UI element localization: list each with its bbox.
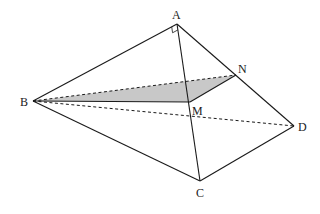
vertex-label-b: B [20,95,28,109]
vertex-label-a: A [172,8,181,22]
edge-cd [200,126,294,181]
edge-bc [33,101,200,181]
tetrahedron-figure: ABCDMN [0,0,320,214]
vertex-label-m: M [192,104,203,118]
right-angle-marker-icon [172,27,178,33]
vertex-label-c: C [196,186,204,200]
section-triangle-bnm [33,75,236,102]
vertex-label-d: D [298,120,307,134]
vertex-label-n: N [238,62,247,76]
hidden-edge-bd [33,101,294,126]
